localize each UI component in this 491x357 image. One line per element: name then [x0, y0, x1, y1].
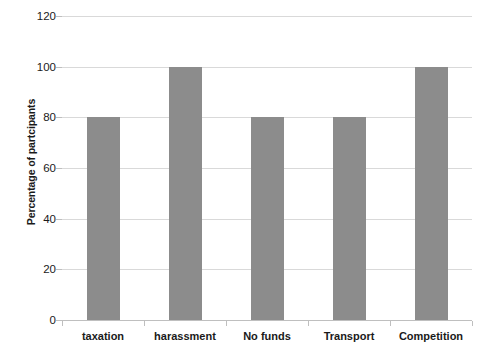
bar [169, 67, 202, 320]
y-axis-tick-mark [56, 168, 62, 169]
bar [333, 117, 366, 320]
x-axis-tick-mark [472, 321, 473, 326]
x-axis-tick-labels: taxationharassmentNo fundsTransportCompe… [62, 330, 472, 350]
x-axis-tick-label: harassment [154, 330, 216, 342]
bar [415, 67, 448, 320]
x-axis-tick-mark [308, 321, 309, 326]
y-axis-tick-mark [56, 269, 62, 270]
bar-chart: Percentage of partcipants 02040608010012… [0, 0, 491, 357]
y-axis-tick-mark [56, 67, 62, 68]
gridline [62, 16, 472, 17]
x-axis-tick-label: No funds [243, 330, 291, 342]
bar [251, 117, 284, 320]
y-axis-tick-label: 20 [28, 263, 56, 275]
x-axis-tick-label: Competition [399, 330, 463, 342]
gridline [62, 67, 472, 68]
y-axis-tick-label: 80 [28, 111, 56, 123]
y-axis-tick-label: 100 [28, 61, 56, 73]
y-axis-tick-label: 40 [28, 213, 56, 225]
x-axis-tick-mark [62, 321, 63, 326]
bar [87, 117, 120, 320]
x-axis-tick-mark [390, 321, 391, 326]
y-axis-tick-labels: 020406080100120 [28, 0, 56, 357]
y-axis-tick-mark [56, 117, 62, 118]
y-axis-tick-label: 120 [28, 10, 56, 22]
y-axis-tick-label: 60 [28, 162, 56, 174]
x-axis-tick-mark [226, 321, 227, 326]
x-axis-tick-label: Transport [324, 330, 375, 342]
y-axis-tick-label: 0 [28, 314, 56, 326]
x-axis-tick-label: taxation [82, 330, 124, 342]
x-axis-tick-mark [144, 321, 145, 326]
x-axis-line [62, 320, 472, 321]
y-axis-tick-mark [56, 219, 62, 220]
plot-area [62, 16, 472, 320]
y-axis-tick-mark [56, 16, 62, 17]
